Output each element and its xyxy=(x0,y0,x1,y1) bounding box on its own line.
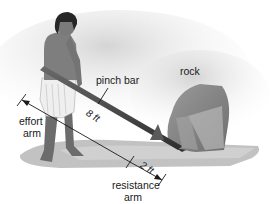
lever-scene: pinch bar rock effort arm resistance arm… xyxy=(0,0,273,204)
resistance-arm-label-line2: arm xyxy=(124,192,142,203)
pinch-bar-label: pinch bar xyxy=(96,75,139,86)
effort-arm-label-line1: effort xyxy=(19,116,43,127)
resistance-arm-label-line1: resistance xyxy=(112,180,160,191)
effort-arm-label-line2: arm xyxy=(23,128,41,139)
lever-illustration xyxy=(0,0,273,204)
rock-label: rock xyxy=(180,66,200,77)
